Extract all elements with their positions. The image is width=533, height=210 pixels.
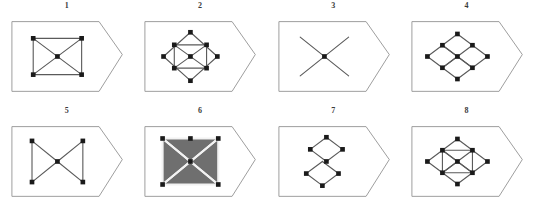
figure-panel-2: 2	[133, 0, 266, 105]
panel-shape	[425, 32, 490, 82]
panel-drawing-2	[133, 10, 266, 102]
shape-vertex-dot	[425, 159, 430, 164]
shape-vertex-dot	[30, 139, 35, 144]
shape-vertex-dot	[303, 171, 308, 176]
shape-edge	[326, 137, 342, 149]
shape-vertex-dot	[31, 36, 36, 41]
shape-vertex-dot	[455, 32, 460, 37]
figure-panel-7: 7	[267, 105, 400, 210]
shape-vertex-dot	[455, 182, 460, 187]
shape-edge	[326, 149, 342, 161]
shape-vertex-dot	[307, 147, 312, 152]
shape-vertex-dot	[216, 182, 221, 187]
shape-edge	[306, 161, 322, 173]
shape-vertex-dot	[440, 65, 445, 70]
shape-vertex-dot	[215, 54, 220, 59]
shape-vertex-dot	[470, 170, 475, 175]
shape-vertex-dot	[205, 66, 210, 71]
shape-vertex-dot	[188, 78, 193, 83]
shape-vertex-dot	[455, 159, 460, 164]
shape-vertex-dot	[188, 54, 193, 59]
shape-vertex-dot	[470, 65, 475, 70]
shape-vertex-dot	[205, 43, 210, 48]
shape-vertex-dot	[336, 171, 341, 176]
shape-vertex-dot	[161, 54, 166, 59]
shape-vertex-dot	[324, 159, 329, 164]
shape-edge	[322, 174, 338, 186]
figure-panel-1: 1	[0, 0, 133, 105]
shape-vertex-dot	[79, 72, 84, 77]
panel-drawing-6	[133, 115, 266, 207]
figure-panel-8: 8	[400, 105, 533, 210]
figure-panel-5: 5	[0, 105, 133, 210]
shape-vertex-dot	[188, 136, 193, 141]
shape-edge	[310, 137, 326, 149]
shape-vertex-dot	[188, 30, 193, 35]
shape-vertex-dot	[161, 182, 166, 187]
shape-vertex-dot	[440, 170, 445, 175]
panel-drawing-4	[400, 10, 533, 102]
shape-vertex-dot	[485, 54, 490, 59]
shape-vertex-dot	[81, 180, 86, 185]
shape-vertex-dot	[485, 159, 490, 164]
figure-panel-4: 4	[400, 0, 533, 105]
figure-panel-grid: 12345678	[0, 0, 533, 210]
shape-vertex-dot	[172, 66, 177, 71]
shape-vertex-dot	[455, 54, 460, 59]
shape-vertex-dot	[455, 137, 460, 142]
panel-outline	[278, 127, 388, 197]
panel-shape	[31, 36, 84, 77]
panel-shape	[161, 136, 221, 187]
panel-drawing-8	[400, 115, 533, 207]
figure-panel-6: 6	[133, 105, 266, 210]
panel-drawing-3	[267, 10, 400, 102]
shape-edge	[306, 174, 322, 186]
shape-vertex-dot	[440, 43, 445, 48]
shape-vertex-dot	[30, 180, 35, 185]
shape-vertex-dot	[425, 54, 430, 59]
shape-vertex-dot	[55, 54, 60, 59]
panel-shape	[425, 137, 490, 187]
shape-vertex-dot	[340, 147, 345, 152]
shape-edge	[57, 141, 82, 162]
shape-vertex-dot	[172, 43, 177, 48]
shape-vertex-dot	[322, 54, 327, 59]
shape-vertex-dot	[470, 148, 475, 153]
figure-panel-3: 3	[267, 0, 400, 105]
shape-vertex-dot	[161, 136, 166, 141]
shape-vertex-dot	[79, 36, 84, 41]
shape-vertex-dot	[81, 139, 86, 144]
shape-edge	[32, 141, 57, 162]
panel-shape	[161, 30, 219, 83]
shape-vertex-dot	[324, 135, 329, 140]
shape-vertex-dot	[470, 43, 475, 48]
panel-drawing-5	[0, 115, 133, 207]
shape-vertex-dot	[216, 136, 221, 141]
panel-shape	[30, 139, 85, 185]
shape-edge	[57, 161, 82, 182]
panel-drawing-7	[267, 115, 400, 207]
panel-shape	[300, 37, 348, 76]
shape-vertex-dot	[455, 77, 460, 82]
panel-outline	[12, 127, 122, 197]
shape-edge	[310, 149, 326, 161]
shape-vertex-dot	[440, 148, 445, 153]
shape-vertex-dot	[31, 72, 36, 77]
shape-vertex-dot	[55, 159, 60, 164]
panel-drawing-1	[0, 10, 133, 102]
shape-edge	[32, 161, 57, 182]
panel-outline	[278, 22, 388, 92]
shape-vertex-dot	[320, 183, 325, 188]
panel-outline	[12, 22, 122, 92]
panel-shape	[303, 135, 344, 188]
shape-vertex-dot	[188, 159, 193, 164]
